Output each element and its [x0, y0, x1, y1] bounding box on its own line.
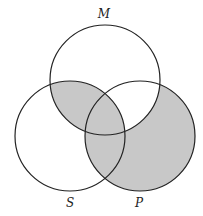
- label-m: M: [97, 7, 111, 21]
- label-p: P: [134, 196, 144, 210]
- label-s: S: [66, 196, 74, 210]
- venn-diagram: M S P: [0, 0, 203, 216]
- venn-svg: M S P: [0, 0, 203, 216]
